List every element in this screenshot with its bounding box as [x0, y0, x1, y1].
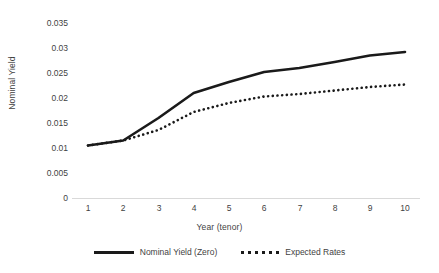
- x-axis-tick-label: 4: [179, 203, 209, 213]
- x-axis-tick-label: 3: [144, 203, 174, 213]
- chart-legend: Nominal Yield (Zero) Expected Rates: [0, 247, 439, 257]
- plot-area: [0, 0, 439, 273]
- legend-item-label: Expected Rates: [285, 247, 345, 257]
- x-axis-tick-label: 2: [108, 203, 138, 213]
- series-line-expected-rates: [88, 85, 405, 146]
- x-axis-tick-label: 8: [320, 203, 350, 213]
- x-axis-tick-label: 5: [214, 203, 244, 213]
- x-axis-tick-label: 6: [249, 203, 279, 213]
- x-axis-tick-label: 1: [73, 203, 103, 213]
- legend-item-nominal-yield-zero: Nominal Yield (Zero): [94, 247, 217, 257]
- x-axis-title: Year (tenor): [0, 222, 439, 232]
- x-axis-tick-label: 9: [355, 203, 385, 213]
- x-axis-tick-label: 7: [285, 203, 315, 213]
- x-axis-tick-label: 10: [390, 203, 420, 213]
- solid-line-swatch-icon: [94, 251, 134, 254]
- legend-item-expected-rates: Expected Rates: [239, 247, 345, 257]
- legend-item-label: Nominal Yield (Zero): [140, 247, 217, 257]
- dotted-line-swatch-icon: [239, 251, 279, 254]
- series-line-nominal-yield-zero: [88, 52, 405, 146]
- line-chart: Nominal Yield 0.035 0.03 0.025 0.02 0.01…: [0, 0, 439, 273]
